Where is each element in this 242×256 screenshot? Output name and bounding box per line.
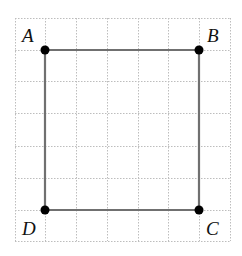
vertices: ABCD xyxy=(20,25,219,239)
vertex-c xyxy=(195,206,204,215)
vertex-a xyxy=(41,46,50,55)
vertex-d xyxy=(41,206,50,215)
diagram-canvas: ABCD xyxy=(0,0,242,256)
vertex-b xyxy=(195,46,204,55)
vertex-label-c: C xyxy=(206,218,219,239)
vertex-label-b: B xyxy=(207,25,219,46)
vertex-label-a: A xyxy=(20,25,34,46)
square-abcd xyxy=(45,50,199,210)
vertex-label-d: D xyxy=(21,218,36,239)
